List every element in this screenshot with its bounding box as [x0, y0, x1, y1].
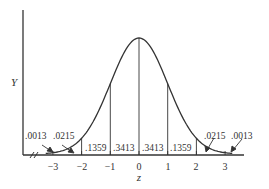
- area-label-right-far: .0013: [231, 131, 253, 141]
- area-label-right-near: .0215: [204, 131, 226, 141]
- normal-curve-diagram: .0013 .0215 .1359 .3413 .3413 .1359 .021…: [0, 0, 269, 189]
- area-label-neg2-neg1: .1359: [85, 143, 107, 153]
- area-label-1-2: .1359: [170, 143, 192, 153]
- tick-label-neg1: −1: [105, 161, 116, 172]
- tick-label-2: 2: [194, 161, 199, 172]
- tick-label-neg3: −3: [48, 161, 59, 172]
- x-axis-label: z: [136, 171, 142, 183]
- tick-label-1: 1: [166, 161, 171, 172]
- tick-label-neg2: −2: [77, 161, 88, 172]
- segment-dividers: [82, 38, 197, 155]
- y-axis-label: Y: [11, 76, 19, 88]
- tick-label-3: 3: [223, 161, 228, 172]
- area-label-neg1-0: .3413: [113, 143, 135, 153]
- area-label-left-near: .0215: [53, 131, 75, 141]
- area-label-0-1: .3413: [142, 143, 164, 153]
- area-label-left-far: .0013: [25, 131, 47, 141]
